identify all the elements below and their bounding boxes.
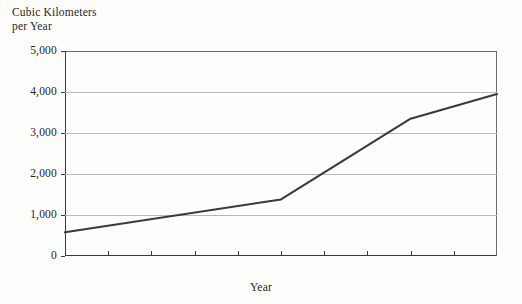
chart-figure: Cubic Kilometers per Year 5,0004,0003,00… xyxy=(0,0,522,304)
y-axis-title: Cubic Kilometers per Year xyxy=(12,6,97,33)
y-axis-tick-label: 4,000 xyxy=(1,86,57,98)
y-axis-tick-label: 2,000 xyxy=(1,168,57,180)
y-axis-tick-label: 0 xyxy=(1,250,57,262)
y-axis-tick-label: 3,000 xyxy=(1,127,57,139)
y-axis-tick xyxy=(61,256,65,257)
x-axis-title: Year xyxy=(0,281,522,293)
y-axis-tick-label: 5,000 xyxy=(1,45,57,57)
y-axis-tick-label: 1,000 xyxy=(1,209,57,221)
plot-area: 5,0004,0003,0002,0001,0000 1900192019401… xyxy=(65,51,497,256)
data-series-line xyxy=(65,51,497,256)
